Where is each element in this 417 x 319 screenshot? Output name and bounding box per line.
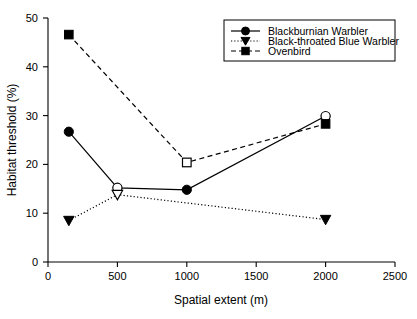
y-tick-label: 0	[32, 256, 38, 268]
data-point-black-throated-blue-warbler-2000	[320, 215, 330, 224]
chart-figure: 0 10 20 30 40 50 0 500 1000 1500 2000 25…	[0, 0, 417, 319]
data-point-black-throated-blue-warbler-150	[64, 216, 74, 225]
series-blackburnian-warbler	[64, 111, 330, 194]
legend-marker-circle-icon	[242, 27, 250, 35]
y-axis-title: Habitat threshold (%)	[5, 84, 19, 197]
data-point-ovenbird-2000	[321, 120, 330, 129]
series-line-blackburnian-warbler	[69, 116, 326, 190]
x-tick-label: 2000	[313, 270, 337, 282]
y-tick-label: 20	[26, 158, 38, 170]
y-tick-label: 10	[26, 207, 38, 219]
legend-marker-square-icon	[242, 47, 249, 54]
data-point-ovenbird-150	[65, 30, 74, 39]
data-point-blackburnian-warbler-1000	[182, 185, 191, 194]
line-chart: 0 10 20 30 40 50 0 500 1000 1500 2000 25…	[0, 0, 417, 319]
x-tick-label: 2500	[383, 270, 407, 282]
series-line-black-throated-blue-warbler	[69, 195, 326, 221]
y-tick-label: 30	[26, 110, 38, 122]
x-tick-label: 1000	[175, 270, 199, 282]
series-black-throated-blue-warbler	[64, 190, 331, 225]
data-point-blackburnian-warbler-150	[64, 127, 73, 136]
x-axis-title: Spatial extent (m)	[174, 293, 268, 307]
legend-label-ovenbird: Ovenbird	[268, 45, 311, 57]
y-tick-label: 50	[26, 12, 38, 24]
x-tick-label: 0	[45, 270, 51, 282]
y-tick-label: 40	[26, 61, 38, 73]
x-axis-ticks: 0 500 1000 1500 2000 2500	[45, 262, 407, 282]
y-axis-ticks: 0 10 20 30 40 50	[26, 12, 48, 268]
x-tick-label: 1500	[244, 270, 268, 282]
x-tick-label: 500	[108, 270, 126, 282]
chart-legend: Blackburnian Warbler Black-throated Blue…	[224, 20, 399, 61]
data-point-ovenbird-1000	[183, 158, 192, 167]
